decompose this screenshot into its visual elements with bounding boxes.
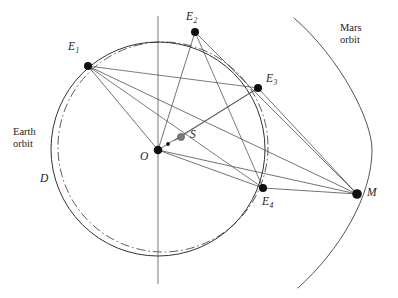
sun-point-label: S <box>190 128 196 141</box>
e2-point-label-text: E <box>186 10 193 22</box>
e3-point-label-sub: 3 <box>273 78 277 87</box>
mars-orbit-arc <box>294 18 372 288</box>
mars-point-label: M <box>367 186 377 199</box>
deferent-point-label: D <box>40 172 48 185</box>
point-marker-S <box>177 133 184 140</box>
e3-point-label: E3 <box>266 72 277 85</box>
e1-point-label: E1 <box>68 40 79 53</box>
e4-point-label-sub: 4 <box>269 201 273 210</box>
e2-point-label-sub: 2 <box>193 16 197 25</box>
earth-orbit-label-line1: Earth <box>13 126 36 138</box>
center-point-label: O <box>140 150 148 163</box>
point-marker-E2 <box>191 28 199 36</box>
line-E2-M <box>195 32 357 194</box>
point-marker-O <box>154 146 163 155</box>
earth-orbit-label: Earth orbit <box>13 126 36 150</box>
line-S-E3 <box>174 88 258 141</box>
line-O-E4 <box>158 150 263 188</box>
e4-point-label: E4 <box>262 195 273 208</box>
e1-point-label-text: E <box>68 40 75 52</box>
point-marker-M <box>352 189 362 199</box>
line-E3-M <box>258 88 357 194</box>
e3-point-label-text: E <box>266 72 273 84</box>
e1-point-label-sub: 1 <box>75 46 79 55</box>
point-marker-E1 <box>84 62 92 70</box>
e2-point-label: E2 <box>186 10 197 23</box>
point-marker-E3 <box>254 84 262 92</box>
line-E1-M <box>88 66 357 194</box>
earth-orbit-label-line2: orbit <box>13 138 36 150</box>
mars-orbit-label: Mars orbit <box>340 22 362 46</box>
diagram-canvas <box>0 0 398 298</box>
chord-lines-group <box>88 32 263 188</box>
orbit-diagram-figure: Earth orbit Mars orbit O S D M E1 E2 E3 … <box>0 0 398 298</box>
line-O-E1 <box>88 66 158 150</box>
mars-orbit-label-line1: Mars <box>340 22 362 34</box>
sight-lines-to-mars-group <box>88 32 357 194</box>
e4-point-label-text: E <box>262 195 269 207</box>
point-marker-eccentric <box>166 142 170 146</box>
mars-orbit-label-line2: orbit <box>340 34 362 46</box>
radius-lines-group <box>88 32 357 194</box>
point-marker-E4 <box>259 184 267 192</box>
